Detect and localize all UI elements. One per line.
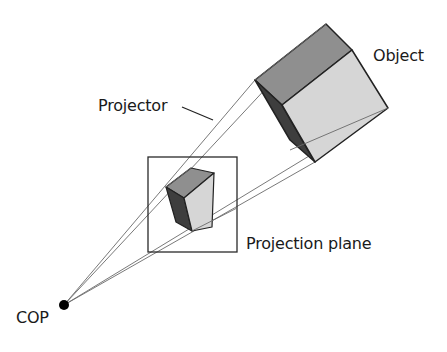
- perspective-projection-diagram: Object Projector Projection plane COP: [0, 0, 447, 352]
- cop-label: COP: [16, 310, 49, 326]
- cop-point: [59, 300, 69, 310]
- projector-leader-line: [182, 107, 213, 120]
- object-label: Object: [373, 48, 424, 64]
- projected-cube: [166, 168, 214, 231]
- object-cube: [255, 24, 388, 162]
- projection-plane-label: Projection plane: [246, 236, 371, 252]
- projector-label: Projector: [98, 98, 167, 114]
